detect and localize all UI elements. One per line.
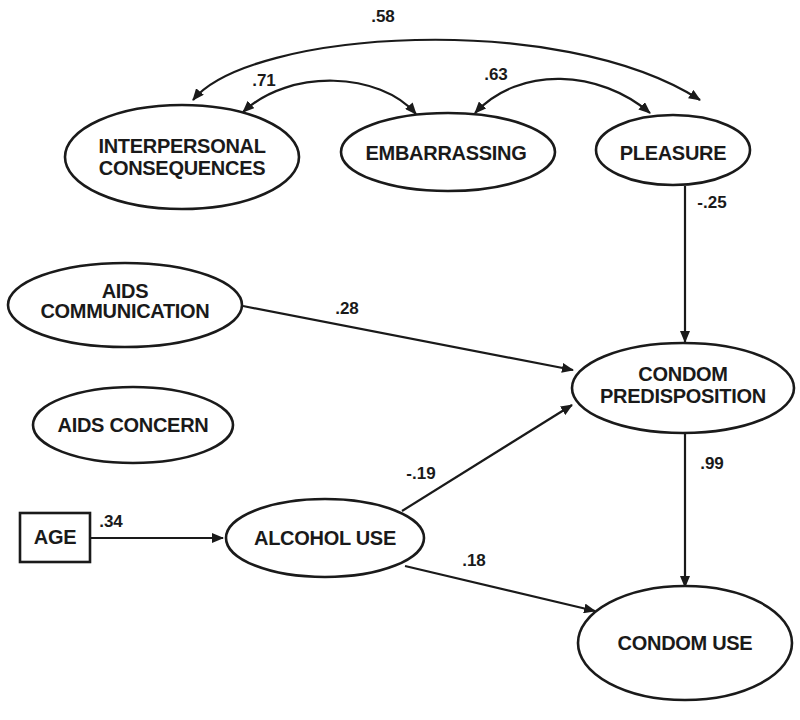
coef-pleasure-condom-predisposition: -.25	[697, 193, 726, 212]
coef-embarrassing-pleasure: .63	[484, 65, 508, 84]
edge-aids-communication-condom-predisposition	[243, 306, 573, 370]
node-label: EMBARRASSING	[366, 142, 527, 164]
node-label: AGE	[34, 526, 76, 548]
node-label: CONDOM USE	[618, 632, 753, 654]
coef-condom-predisposition-condom-use: .99	[700, 454, 724, 473]
node-interpersonal-consequences: INTERPERSONAL CONSEQUENCES	[65, 105, 299, 209]
coef-interpersonal-embarrassing: .71	[252, 71, 276, 90]
coef-interpersonal-pleasure: .58	[371, 7, 395, 26]
node-label-line-2: PREDISPOSITION	[600, 385, 766, 407]
node-label: ALCOHOL USE	[254, 527, 396, 549]
node-aids-communication: AIDS COMMUNICATION	[8, 263, 242, 347]
node-embarrassing: EMBARRASSING	[341, 113, 555, 191]
path-diagram: .58 .71 .63 -.25 .28 -.19 .34 .18 .99 IN…	[0, 0, 800, 720]
edge-interpersonal-pleasure	[193, 40, 700, 100]
coef-age-alcohol-use: .34	[99, 512, 123, 531]
node-age: AGE	[20, 513, 90, 562]
node-label-line-1: INTERPERSONAL	[98, 135, 265, 157]
node-pleasure: PLEASURE	[596, 115, 750, 185]
edge-alcohol-use-condom-use	[405, 566, 595, 611]
node-condom-use: CONDOM USE	[578, 586, 792, 700]
coef-alcohol-use-condom-use: .18	[462, 551, 486, 570]
node-aids-concern: AIDS CONCERN	[33, 387, 233, 463]
edge-alcohol-use-condom-predisposition	[402, 405, 572, 511]
node-condom-predisposition: CONDOM PREDISPOSITION	[572, 343, 794, 433]
node-label-line-2: CONSEQUENCES	[99, 157, 265, 179]
node-label-line-1: AIDS	[102, 280, 149, 302]
node-label: PLEASURE	[620, 142, 727, 164]
coef-aids-communication-condom-predisposition: .28	[335, 299, 359, 318]
node-label-line-2: COMMUNICATION	[40, 300, 209, 322]
coef-alcohol-use-condom-predisposition: -.19	[406, 464, 435, 483]
node-alcohol-use: ALCOHOL USE	[226, 499, 424, 577]
node-label-line-1: CONDOM	[638, 363, 727, 385]
node-label: AIDS CONCERN	[58, 414, 209, 436]
